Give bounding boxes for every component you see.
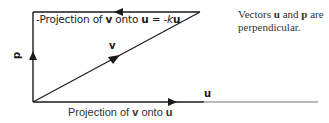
neg-projection-caption: -Projection of v onto u = -ku: [36, 13, 180, 25]
p-arrowhead-icon: [29, 51, 37, 60]
u-arrowhead-icon: [168, 98, 177, 106]
perpendicular-note: Vectors u and p are perpendicular.: [238, 8, 329, 34]
p-label: p: [11, 52, 22, 59]
v-arrowhead-icon: [108, 55, 120, 64]
v-label: v: [109, 40, 116, 51]
projection-caption: Projection of v onto u: [68, 106, 173, 118]
u-label: u: [204, 88, 211, 99]
